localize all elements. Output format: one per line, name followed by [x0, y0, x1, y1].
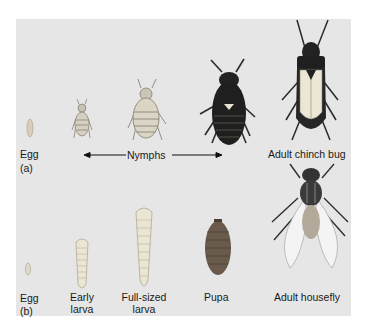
illustrations	[0, 0, 367, 331]
panel-b-tag: (b)	[20, 305, 33, 317]
pupa-icon	[205, 219, 231, 275]
label-adult-housefly: Adult housefly	[274, 291, 340, 303]
nymph-large-icon	[200, 59, 255, 145]
label-housefly-egg: Egg	[20, 292, 39, 304]
adult-housefly-icon	[272, 164, 348, 268]
label-full-sized-larva-line2: larva	[116, 303, 172, 315]
label-full-sized-larva: Full-sized larva	[116, 291, 172, 315]
label-full-sized-larva-line1: Full-sized	[116, 291, 172, 303]
nymph-medium-icon	[128, 79, 166, 140]
early-larva-icon	[76, 239, 88, 288]
housefly-egg-icon	[26, 263, 31, 275]
label-adult-chinch-bug: Adult chinch bug	[268, 148, 346, 160]
label-chinch-egg: Egg	[20, 148, 39, 160]
label-early-larva-line1: Early	[62, 291, 102, 303]
full-sized-larva-icon	[136, 208, 152, 286]
chinch-egg-icon	[27, 119, 33, 137]
label-nymphs: Nymphs	[127, 149, 166, 161]
panel-a-tag: (a)	[20, 162, 33, 174]
adult-chinch-bug-icon	[282, 20, 338, 140]
label-pupa: Pupa	[204, 291, 229, 303]
label-early-larva: Early larva	[62, 291, 102, 315]
nymph-small-icon	[72, 99, 92, 138]
label-early-larva-line2: larva	[62, 303, 102, 315]
